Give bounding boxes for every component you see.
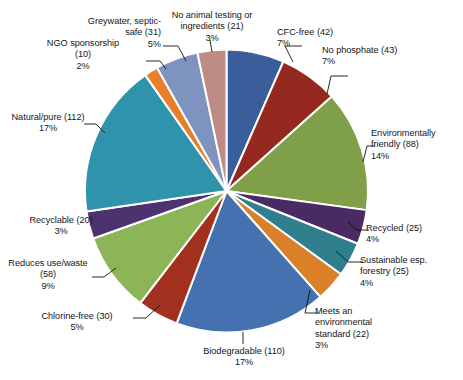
slice-label-recyclable: Recyclable (20) 3% — [9, 215, 113, 238]
slice-label-no-animal-testing: No animal testing or ingredients (21) 3% — [156, 10, 268, 44]
slice-label-chlorine-free: Chlorine-free (30) 5% — [21, 311, 133, 334]
slice-label-natural-pure: Natural/pure (112) 17% — [5, 112, 91, 135]
slice-label-greywater-septic-safe: Greywater, septic- safe (31) 5% — [53, 16, 161, 50]
slice-label-reduces-use-waste: Reduces use/waste (58) 9% — [2, 258, 94, 292]
leader-line-no-phosphate — [327, 76, 348, 94]
slice-label-sustainable-forestry: Sustainable esp. forestry (25) 4% — [360, 255, 463, 289]
slice-label-no-phosphate: No phosphate (43) 7% — [322, 45, 442, 68]
slice-label-meets-standard: Meets an environmental standard (22) 3% — [315, 306, 411, 352]
pie-slices-group — [85, 50, 368, 333]
pie-chart-figure: CFC-free (42) 7% No phosphate (43) 7% En… — [0, 0, 463, 380]
slice-label-recycled: Recycled (25) 4% — [366, 223, 461, 246]
slice-label-environmentally-friendly: Environmentally friendly (88) 14% — [371, 128, 463, 162]
slice-label-biodegradable: Biodegradable (110) 17% — [171, 346, 317, 369]
